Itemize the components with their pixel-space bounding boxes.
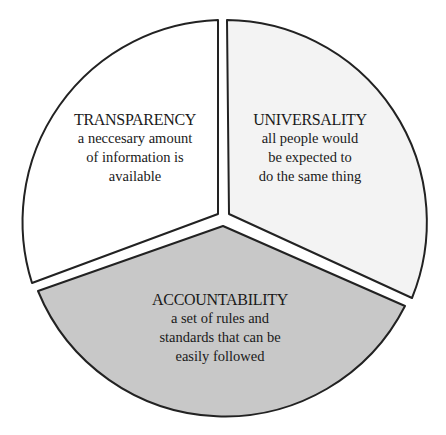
label-universality: UNIVERSALITY all people would be expecte… [230,110,390,186]
segment-description: a neccesary amount [55,129,215,148]
segment-description: a set of rules and [130,309,310,328]
segment-description: be expected to [230,148,390,167]
segmented-circle-diagram [0,0,446,435]
segment-description: of information is [55,148,215,167]
segment-title: TRANSPARENCY [55,110,215,129]
segment-description: do the same thing [230,167,390,186]
segment-description: standards that can be [130,328,310,347]
segment-title: UNIVERSALITY [230,110,390,129]
segment-description: all people would [230,129,390,148]
segment-description: easily followed [130,347,310,366]
segment-title: ACCOUNTABILITY [130,290,310,309]
segment-description: available [55,167,215,186]
label-transparency: TRANSPARENCY a neccesary amount of infor… [55,110,215,186]
label-accountability: ACCOUNTABILITY a set of rules and standa… [130,290,310,366]
